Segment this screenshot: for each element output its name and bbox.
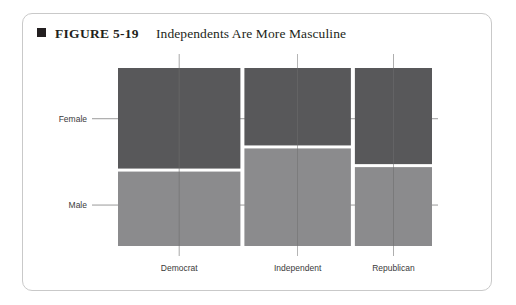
y-axis-label: Male (69, 200, 88, 210)
chart-svg: FemaleMaleDemocratIndependentRepublican (23, 14, 493, 292)
y-axis-label: Female (59, 114, 88, 124)
figure-frame: FIGURE 5-19 Independents Are More Mascul… (22, 13, 492, 291)
x-axis-label: Independent (274, 263, 322, 273)
x-axis-label: Democrat (161, 263, 198, 273)
mosaic-chart: FemaleMaleDemocratIndependentRepublican (23, 14, 493, 292)
x-axis-label: Republican (372, 263, 415, 273)
